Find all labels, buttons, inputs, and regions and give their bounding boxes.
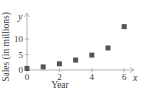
data-point-square: [106, 45, 111, 50]
data-point-square: [73, 58, 78, 63]
data-point-square: [57, 61, 62, 66]
x-axis-var: x: [132, 72, 138, 83]
y-tick-label: 5: [19, 50, 24, 60]
y-axis-label: Sales (in millions): [1, 12, 12, 82]
data-point-square: [122, 24, 127, 29]
data-point-square: [89, 53, 94, 58]
x-tick-label: 4: [90, 72, 95, 82]
tick-labels: 02460510: [14, 34, 127, 82]
data-point-square: [25, 66, 30, 71]
y-tick-label: 0: [19, 65, 24, 75]
scatter-chart: 02460510 x y Year Sales (in millions): [0, 0, 142, 94]
x-tick-label: 6: [122, 72, 127, 82]
y-tick-label: 10: [14, 34, 24, 44]
axes: [25, 13, 135, 73]
data-points: [25, 24, 127, 71]
x-tick-label: 0: [25, 72, 30, 82]
y-axis-var: y: [17, 11, 23, 22]
x-axis-label: Year: [51, 80, 69, 90]
data-point-square: [41, 64, 46, 69]
ticks: [25, 39, 124, 72]
